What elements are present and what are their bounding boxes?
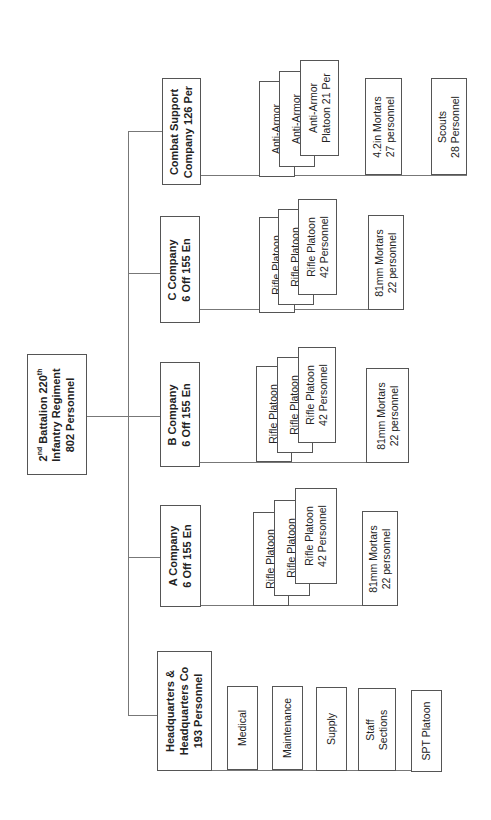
trunk-line <box>128 131 129 716</box>
a-rifle-platoon-3: Rifle Platoon42 Personnel <box>295 488 337 584</box>
c-connector <box>128 273 160 274</box>
hq-supply-box: Supply <box>316 687 347 771</box>
hq-connector <box>128 715 157 716</box>
c-company-box: C Company6 Off 155 En <box>160 216 200 323</box>
scouts-box: Scouts28 Personnel <box>431 78 467 175</box>
c-rifle-platoon-3: Rifle Platoon42 Personnel <box>298 199 337 295</box>
hq-medical-box: Medical <box>227 686 258 770</box>
cs-children-line <box>200 175 467 176</box>
a-connector <box>128 557 160 558</box>
combat-support-company-box: Combat SupportCompany 126 Per <box>162 78 201 185</box>
hq-maintenance-box: Maintenance <box>272 686 303 770</box>
mortars-42in-box: 4.2in Mortars27 personnel <box>365 78 402 175</box>
root-connector <box>87 416 160 417</box>
b-company-box: B Company6 Off 155 En <box>160 362 200 467</box>
b-rifle-platoon-3: Rifle Platoon42 Personnel <box>298 347 336 443</box>
anti-armor-platoon-box: Anti-ArmorPlatoon 21 Per <box>300 60 339 156</box>
hq-staff-sections-box: StaffSections <box>358 688 396 771</box>
hq-spt-platoon-box: SPT Platoon <box>411 690 442 772</box>
hq-company-box: Headquarters &Headquarters Co193 Personn… <box>157 651 212 771</box>
c-81mm-mortars-box: 81mm Mortars22 personnel <box>368 215 404 310</box>
a-company-box: A Company6 Off 155 En <box>160 505 201 607</box>
a-81mm-mortars-box: 81mm Mortars22 personnel <box>362 511 398 606</box>
root-battalion-box: 2nd Battalion 220th Infantry Regiment 80… <box>27 354 87 475</box>
b-81mm-mortars-box: 81mm Mortars22 personnel <box>366 368 409 463</box>
cs-connector <box>128 131 162 132</box>
